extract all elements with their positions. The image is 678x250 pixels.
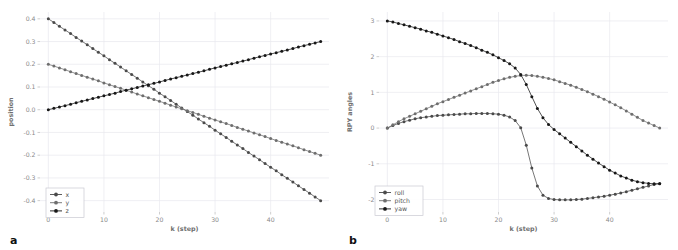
svg-text:k (step): k (step) (170, 225, 198, 233)
svg-text:-0.4: -0.4 (23, 197, 35, 204)
svg-text:-1: -1 (368, 160, 374, 167)
svg-text:20: 20 (495, 216, 503, 223)
panel-letter-b: b (349, 234, 357, 247)
svg-text:0.2: 0.2 (26, 60, 36, 67)
chart-rpy-svg: 3210-1-2010203040k (step)RPY anglesrollp… (339, 0, 678, 250)
svg-text:position: position (7, 97, 15, 127)
svg-text:30: 30 (550, 216, 558, 223)
svg-text:0: 0 (385, 216, 389, 223)
svg-text:0.3: 0.3 (26, 38, 36, 45)
svg-text:10: 10 (439, 216, 447, 223)
panel-a: 0.40.30.20.10.0-0.1-0.2-0.3-0.4010203040… (0, 0, 339, 250)
svg-text:-0.3: -0.3 (23, 174, 35, 181)
svg-text:30: 30 (211, 216, 219, 223)
svg-text:2: 2 (371, 53, 375, 60)
svg-text:0.4: 0.4 (26, 15, 36, 22)
svg-text:-2: -2 (368, 196, 374, 203)
svg-text:10: 10 (100, 216, 108, 223)
svg-text:40: 40 (606, 216, 614, 223)
svg-text:40: 40 (267, 216, 275, 223)
svg-text:k (step): k (step) (509, 225, 537, 233)
svg-text:RPY angles: RPY angles (346, 92, 354, 132)
svg-text:1: 1 (371, 89, 375, 96)
panel-b: 3210-1-2010203040k (step)RPY anglesrollp… (339, 0, 678, 250)
svg-text:20: 20 (156, 216, 164, 223)
chart-position-svg: 0.40.30.20.10.0-0.1-0.2-0.3-0.4010203040… (0, 0, 339, 250)
svg-text:3: 3 (371, 17, 375, 24)
svg-text:0: 0 (371, 124, 375, 131)
svg-text:0.1: 0.1 (26, 83, 36, 90)
chart-rpy: 3210-1-2010203040k (step)RPY anglesrollp… (339, 0, 678, 250)
svg-text:-0.2: -0.2 (23, 151, 35, 158)
svg-text:-0.1: -0.1 (23, 129, 35, 136)
svg-text:z: z (66, 207, 69, 214)
svg-text:pitch: pitch (395, 197, 410, 205)
svg-text:0.0: 0.0 (26, 106, 36, 113)
svg-text:y: y (66, 199, 70, 207)
svg-text:yaw: yaw (395, 205, 408, 213)
panel-letter-a: a (10, 234, 17, 247)
figure-container: 0.40.30.20.10.0-0.1-0.2-0.3-0.4010203040… (0, 0, 678, 250)
svg-text:x: x (66, 191, 70, 198)
svg-text:roll: roll (395, 189, 405, 196)
chart-position: 0.40.30.20.10.0-0.1-0.2-0.3-0.4010203040… (0, 0, 339, 250)
